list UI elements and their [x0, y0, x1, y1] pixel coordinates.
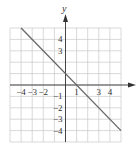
- y-tick-label: −1: [53, 91, 63, 101]
- x-axis-arrow-icon: [128, 83, 136, 88]
- x-tick-label: 4: [108, 87, 113, 97]
- y-axis-label: y: [61, 3, 67, 14]
- y-axis-arrow-icon: [63, 14, 68, 22]
- x-tick-label: 3: [97, 87, 102, 97]
- x-tick-label: −4: [16, 87, 26, 97]
- data-line: [21, 28, 121, 131]
- y-tick-label: −3: [53, 114, 63, 124]
- y-tick-label: −2: [53, 103, 63, 113]
- y-tick-label: 3: [58, 46, 63, 56]
- x-tick-label: −2: [39, 87, 49, 97]
- x-tick-label: −3: [27, 87, 37, 97]
- x-tick-label: 1: [74, 87, 79, 97]
- series-line: [21, 28, 121, 131]
- y-tick-label: 4: [58, 34, 63, 44]
- axes: [10, 14, 136, 142]
- y-tick-label: −4: [53, 126, 63, 136]
- coordinate-graph: −4−3−213443−1−2−3−4 y: [0, 0, 137, 154]
